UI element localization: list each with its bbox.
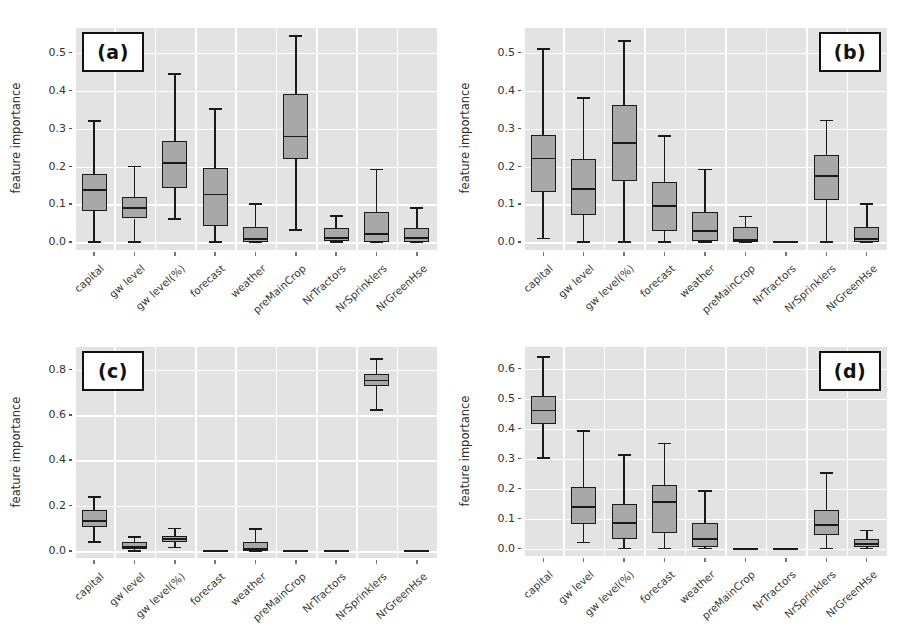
whisker-upper: [704, 170, 706, 213]
whisker-cap-upper: [698, 490, 711, 492]
whisker-cap-lower: [698, 548, 711, 550]
y-axis-label: feature importance: [458, 391, 472, 511]
box-flat: [733, 548, 758, 550]
box-median: [404, 237, 429, 239]
gridline-vertical: [644, 347, 646, 556]
y-axis-tick-label: 0.2: [485, 482, 515, 495]
box-iqr: [814, 510, 839, 535]
whisker-cap-upper: [618, 40, 631, 42]
whisker-upper: [416, 208, 418, 228]
y-axis-tick-label: 0.2: [36, 499, 66, 512]
y-axis-tick-mark: [518, 488, 521, 490]
whisker-upper: [704, 491, 706, 523]
y-axis-tick-mark: [69, 241, 72, 243]
x-axis-tick-mark: [134, 252, 135, 256]
whisker-cap-lower: [88, 541, 101, 543]
gridline-vertical: [604, 28, 606, 250]
y-axis-tick-label: 0.0: [485, 542, 515, 555]
panel-label: (d): [819, 351, 881, 391]
whisker-upper: [93, 497, 95, 509]
box-iqr: [82, 510, 107, 527]
whisker-upper: [826, 473, 828, 510]
gridline-vertical: [155, 347, 157, 558]
gridline-vertical: [235, 28, 237, 250]
box-median: [243, 548, 268, 550]
gridline-horizontal: [523, 91, 887, 93]
box-flat: [283, 550, 308, 552]
whisker-upper: [866, 531, 868, 540]
whisker-cap-upper: [820, 120, 833, 122]
whisker-cap-upper: [698, 169, 711, 171]
gridline-vertical: [276, 28, 278, 250]
whisker-cap-upper: [537, 356, 550, 358]
box-iqr: [324, 228, 349, 242]
box-iqr: [692, 212, 717, 241]
x-axis-tick-mark: [745, 252, 746, 256]
y-axis-tick-mark: [518, 428, 521, 430]
whisker-cap-upper: [249, 203, 262, 205]
x-axis-tick-mark: [295, 252, 296, 256]
x-axis-tick-mark: [623, 252, 624, 256]
gridline-vertical: [523, 28, 525, 250]
whisker-cap-lower: [658, 548, 671, 550]
gridline-horizontal: [523, 399, 887, 401]
whisker-cap-lower: [820, 548, 833, 550]
box-median: [531, 410, 556, 412]
whisker-cap-lower: [209, 241, 222, 243]
box-iqr: [162, 141, 187, 188]
box-iqr: [814, 155, 839, 200]
y-axis-tick-label: 0.6: [36, 408, 66, 421]
whisker-cap-lower: [128, 241, 141, 243]
box-median: [692, 230, 717, 232]
x-axis-tick-mark: [214, 560, 215, 564]
whisker-upper: [376, 170, 378, 212]
x-axis-tick-mark: [93, 560, 94, 564]
whisker-cap-upper: [860, 530, 873, 532]
box-flat: [404, 550, 429, 552]
y-axis-tick-label: 0.0: [36, 544, 66, 557]
gridline-vertical: [725, 347, 727, 556]
x-axis-tick-mark: [214, 252, 215, 256]
whisker-cap-upper: [410, 207, 423, 209]
y-axis-tick-mark: [518, 518, 521, 520]
y-axis-label: feature importance: [9, 392, 23, 512]
x-axis-tick-mark: [376, 560, 377, 564]
box-median: [531, 158, 556, 160]
y-axis-tick-mark: [69, 166, 72, 168]
gridline-vertical: [806, 28, 808, 250]
x-axis-tick-mark: [664, 558, 665, 562]
whisker-upper: [664, 444, 666, 486]
x-axis-tick-mark: [93, 252, 94, 256]
gridline-horizontal: [74, 129, 437, 131]
y-axis-label: feature importance: [458, 78, 472, 198]
whisker-lower: [376, 386, 378, 410]
box-flat: [324, 550, 349, 552]
whisker-cap-upper: [860, 203, 873, 205]
whisker-cap-lower: [618, 548, 631, 550]
x-axis-tick-mark: [826, 252, 827, 256]
whisker-cap-lower: [88, 241, 101, 243]
whisker-upper: [542, 357, 544, 396]
whisker-cap-upper: [370, 358, 383, 360]
whisker-lower: [134, 219, 136, 243]
y-axis-tick-label: 0.1: [485, 197, 515, 210]
box-median: [243, 238, 268, 240]
y-axis-tick-label: 0.5: [485, 46, 515, 59]
whisker-cap-upper: [88, 120, 101, 122]
y-axis-tick-mark: [518, 90, 521, 92]
y-axis-tick-label: 0.0: [36, 235, 66, 248]
whisker-cap-upper: [249, 528, 262, 530]
y-axis-tick-mark: [518, 203, 521, 205]
y-axis-tick-mark: [69, 90, 72, 92]
whisker-cap-upper: [658, 135, 671, 137]
box-flat: [773, 548, 798, 550]
whisker-cap-upper: [739, 216, 752, 218]
x-axis-tick-mark: [416, 252, 417, 256]
whisker-cap-lower: [128, 550, 141, 552]
whisker-cap-upper: [658, 443, 671, 445]
box-iqr: [692, 523, 717, 548]
box-median: [364, 233, 389, 235]
whisker-lower: [93, 211, 95, 242]
box-median: [612, 522, 637, 524]
whisker-cap-lower: [860, 548, 873, 550]
